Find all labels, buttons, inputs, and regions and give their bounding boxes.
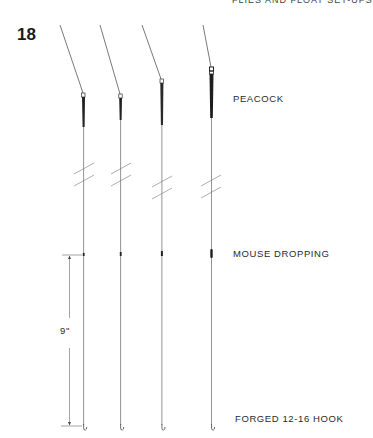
shot-label: MOUSE DROPPING: [233, 248, 330, 259]
dimension-label: 9": [60, 325, 70, 336]
break-mark: [111, 175, 131, 186]
hook-icon: [121, 424, 124, 430]
rig-1: [60, 25, 94, 430]
mouse-dropping-shot: [83, 253, 85, 256]
float-eye: [119, 94, 122, 98]
main-line-diagonal: [142, 25, 161, 79]
hook-icon: [84, 424, 87, 430]
peacock-float: [82, 97, 85, 127]
mouse-dropping-shot: [120, 252, 122, 256]
float-eye: [82, 93, 86, 97]
main-line-diagonal: [60, 25, 83, 93]
peacock-float: [160, 83, 163, 125]
main-line-diagonal: [100, 25, 120, 94]
peacock-float: [210, 74, 214, 118]
break-mark: [74, 175, 94, 186]
break-mark: [111, 163, 131, 174]
float-eye: [210, 67, 214, 71]
rig-2: [100, 25, 131, 430]
hook-icon: [212, 424, 215, 430]
break-mark: [74, 163, 94, 174]
rig-3: [142, 25, 172, 430]
break-mark: [201, 175, 221, 186]
main-line-diagonal: [203, 25, 211, 67]
float-label: PEACOCK: [233, 93, 284, 104]
rig-4: [201, 25, 221, 430]
peacock-float: [119, 98, 122, 120]
float-eye: [160, 79, 164, 83]
mouse-dropping-shot: [161, 251, 163, 256]
break-mark: [201, 187, 221, 198]
hook-label: FORGED 12-16 HOOK: [235, 413, 343, 424]
mouse-dropping-shot: [210, 249, 212, 258]
hook-icon: [162, 424, 165, 430]
dimension-marker: [61, 255, 82, 426]
